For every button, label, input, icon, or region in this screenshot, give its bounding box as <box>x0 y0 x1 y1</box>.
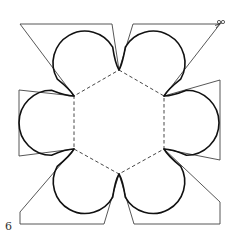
petal-right <box>164 90 219 155</box>
petal-left <box>19 90 74 155</box>
glue-flaps <box>19 24 220 224</box>
petal-top-right <box>119 31 185 96</box>
left-flap <box>19 90 74 156</box>
petal-bottom-left <box>53 149 119 213</box>
bottom-right-flap <box>119 149 220 224</box>
petal-top-left <box>53 31 119 96</box>
papercraft-net-diagram <box>0 0 237 235</box>
petals <box>19 31 219 213</box>
hexagon-fold-lines <box>74 70 164 174</box>
petal-bottom-right <box>119 149 185 213</box>
bottom-left-flap <box>20 149 119 224</box>
page-number: 6 <box>5 220 12 233</box>
right-flap <box>164 80 220 160</box>
